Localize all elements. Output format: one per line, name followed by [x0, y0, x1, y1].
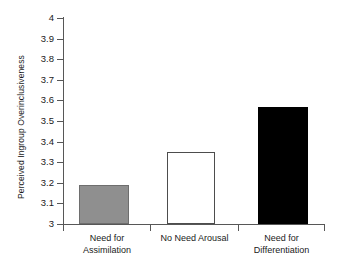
y-tick-mark — [57, 183, 64, 184]
x-axis-label-line: Assimilation — [63, 245, 151, 257]
bar-no-need-arousal — [167, 152, 215, 224]
y-tick-label: 3.6 — [0, 95, 54, 105]
x-axis-label-line: Differentiation — [238, 245, 325, 257]
x-axis-label-line: Need for — [238, 233, 325, 245]
plot-area — [64, 18, 325, 224]
y-tick-mark — [57, 100, 64, 101]
bar-chart: Perceived Ingroup Overinclusiveness 3 3.… — [0, 0, 342, 279]
x-tick-mark — [238, 225, 239, 231]
y-tick-mark — [57, 18, 64, 19]
y-tick-label: 3.7 — [0, 75, 54, 85]
bar-need-for-differentiation — [258, 107, 308, 224]
x-axis-label-need-for-differentiation: Need for Differentiation — [238, 233, 325, 256]
x-axis-label-need-for-assimilation: Need for Assimilation — [63, 233, 151, 256]
y-tick-mark — [57, 203, 64, 204]
y-tick-label: 3 — [0, 219, 54, 229]
x-tick-mark — [150, 225, 151, 231]
y-tick-label: 3.2 — [0, 178, 54, 188]
y-tick-label: 3.3 — [0, 157, 54, 167]
y-tick-mark — [57, 39, 64, 40]
y-tick-label: 3.1 — [0, 198, 54, 208]
y-tick-mark — [57, 162, 64, 163]
y-tick-mark — [57, 80, 64, 81]
bar-need-for-assimilation — [79, 185, 129, 224]
y-tick-mark — [57, 142, 64, 143]
x-axis-label-no-need-arousal: No Need Arousal — [150, 233, 239, 245]
y-tick-mark — [57, 121, 64, 122]
x-tick-mark — [324, 225, 325, 231]
x-axis-label-line: No Need Arousal — [150, 233, 239, 245]
y-tick-label: 3.5 — [0, 116, 54, 126]
x-axis-line — [63, 224, 325, 225]
y-tick-label: 3.4 — [0, 137, 54, 147]
y-tick-label: 3.8 — [0, 54, 54, 64]
x-tick-mark — [63, 225, 64, 231]
y-tick-label: 4 — [0, 13, 54, 23]
x-axis-label-line: Need for — [63, 233, 151, 245]
y-tick-label: 3.9 — [0, 34, 54, 44]
y-tick-mark — [57, 59, 64, 60]
